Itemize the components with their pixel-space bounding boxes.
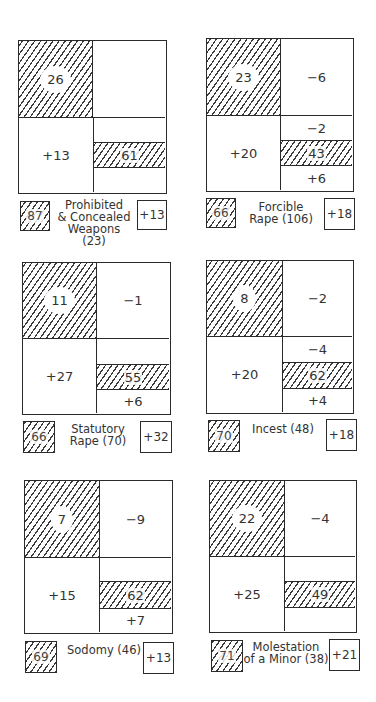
top-left-value: 22 xyxy=(232,505,263,532)
strip-2-hatched: 49 xyxy=(285,582,355,608)
bottom-left-value: +25 xyxy=(233,587,260,602)
strip-1 xyxy=(285,557,355,582)
cell-bottom-left: +25 xyxy=(210,557,285,631)
diagram-box: 22 −4 +25 49 xyxy=(209,480,357,633)
legend-title: Molestation of a Minor (38) xyxy=(241,641,331,665)
hatched-cell-top-left: 22 xyxy=(210,481,285,557)
legend-line-2: of a Minor (38) xyxy=(241,653,331,665)
panel-molestation-of-minor: 22 −4 +25 49 71 Molestation of a Minor (… xyxy=(0,0,376,702)
strip-2-value: 49 xyxy=(311,587,330,602)
legend-hatched-value: 71 xyxy=(218,649,235,663)
legend-value-box: +21 xyxy=(329,639,360,671)
legend-box-value: +21 xyxy=(332,648,357,662)
cell-top-right: −4 xyxy=(285,481,355,557)
top-right-value: −4 xyxy=(310,511,329,526)
legend-hatched-box: 71 xyxy=(211,640,243,672)
strip-3 xyxy=(285,608,355,631)
